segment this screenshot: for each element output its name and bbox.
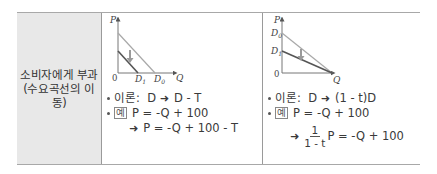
- origin-label: 0: [112, 73, 117, 83]
- y-axis-label: P: [273, 15, 281, 25]
- ad-valorem-tax-cell: P Q 0 D0 D1 이론: D ➜(1 - t)D 예P = -Q + 10…: [263, 13, 420, 164]
- theory-to: (1 - t)D: [335, 91, 376, 105]
- curve-original-label: D0: [270, 28, 282, 39]
- theory-line: 이론: D ➜(1 - t)D: [266, 91, 404, 106]
- x-axis-label: Q: [333, 75, 341, 85]
- example-badge: 예: [114, 107, 127, 119]
- right-arrow-icon: ➜: [290, 129, 299, 144]
- example-badge: 예: [275, 107, 288, 119]
- specific-tax-cell: P Q 0 D1 D0 이론: D ➜D - T 예P = -Q + 100 ➜…: [102, 13, 263, 164]
- fraction-denominator: 1 - t: [304, 137, 325, 149]
- demand-curve-original: [118, 33, 155, 73]
- row-label: 소비자에게 부과 (수요곡선의 이동): [17, 68, 101, 110]
- curve-original-label: D0: [153, 74, 165, 85]
- theory-from: D: [308, 91, 317, 105]
- parallel-shift-diagram: P Q 0 D1 D0: [102, 13, 262, 89]
- right-arrow-icon: ➜: [160, 91, 169, 106]
- result-equation: P = -Q + 100 - T: [143, 121, 238, 135]
- rotation-diagram: P Q 0 D0 D1: [263, 13, 420, 89]
- specific-tax-notes: 이론: D ➜D - T 예P = -Q + 100 ➜P = -Q + 100…: [105, 91, 238, 136]
- theory-from: D: [147, 91, 156, 105]
- example-line: 예P = -Q + 100: [105, 106, 238, 121]
- ad-valorem-tax-notes: 이론: D ➜(1 - t)D 예P = -Q + 100 ➜11 - tP =…: [266, 91, 404, 149]
- fraction: 11 - t: [304, 124, 325, 149]
- right-arrow-icon: ➜: [129, 121, 138, 136]
- example-equation: P = -Q + 100: [132, 106, 208, 120]
- origin-label: 0: [274, 69, 279, 79]
- result-line: ➜11 - tP = -Q + 100: [266, 124, 404, 149]
- bullet-icon: [268, 97, 271, 100]
- fraction-numerator: 1: [310, 124, 321, 137]
- demand-curve-original: [282, 33, 332, 73]
- x-axis-label: Q: [176, 73, 184, 83]
- example-line: 예P = -Q + 100: [266, 106, 404, 121]
- row-label-line2: (수요곡선의 이동): [17, 82, 101, 110]
- theory-label: 이론:: [275, 91, 301, 105]
- example-equation: P = -Q + 100: [293, 106, 369, 120]
- theory-to: D - T: [174, 91, 201, 105]
- bullet-icon: [268, 112, 271, 115]
- right-arrow-icon: ➜: [321, 91, 330, 106]
- demand-curve-new: [118, 51, 138, 73]
- row-label-line1: 소비자에게 부과: [17, 68, 101, 82]
- tax-incidence-table: 소비자에게 부과 (수요곡선의 이동) P Q 0 D1 D0 이론: [17, 12, 420, 165]
- theory-label: 이론:: [114, 91, 140, 105]
- bullet-icon: [107, 97, 110, 100]
- theory-line: 이론: D ➜D - T: [105, 91, 238, 106]
- result-line: ➜P = -Q + 100 - T: [105, 121, 238, 136]
- curve-new-label: D1: [270, 46, 282, 57]
- y-axis-label: P: [109, 15, 117, 25]
- demand-curve-new: [282, 51, 332, 73]
- curve-new-label: D1: [134, 74, 146, 85]
- row-label-cell: 소비자에게 부과 (수요곡선의 이동): [17, 13, 102, 164]
- result-equation: P = -Q + 100: [327, 129, 403, 143]
- bullet-icon: [107, 112, 110, 115]
